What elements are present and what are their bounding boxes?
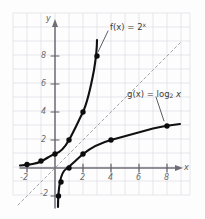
graph-figure: x y 8 6 4 2 -2 -2 2 4 6 8 f(x) = 2x g(x)… [0,0,205,219]
x-tick-label-4: 4 [108,174,113,182]
x-tick-label-2: 2 [80,174,85,182]
g-function-label: g(x) = log2 x [127,90,181,99]
x-axis-arrow [175,165,183,171]
y-axis-label: y [46,15,51,23]
y-tick-label-8: 8 [41,52,46,60]
f-label-leader [98,31,108,52]
f-label-exponent: x [143,21,147,28]
y-tick-label-neg2: -2 [40,190,48,198]
x-tick-label-neg2: -2 [20,174,28,182]
x-tick-label-6: 6 [136,174,141,182]
f-label-text: f(x) = 2 [110,22,143,32]
g-label-leader [156,97,164,121]
graph-canvas [0,0,205,219]
g-label-text: g(x) = log [127,89,170,99]
y-axis-arrow [52,19,58,27]
y-tick-label-4: 4 [41,108,46,116]
curve-g-logarithmic [58,124,180,207]
annotation-leader-lines [98,31,164,121]
y-tick-label-2: 2 [41,136,46,144]
f-function-label: f(x) = 2x [110,22,146,32]
curve-f-exponential [20,40,97,166]
g-label-variable: x [176,89,181,99]
y-tick-label-6: 6 [41,80,46,88]
identity-line-y-equals-x [18,41,182,205]
x-tick-label-8: 8 [164,174,169,182]
x-axis-label: x [184,164,189,172]
